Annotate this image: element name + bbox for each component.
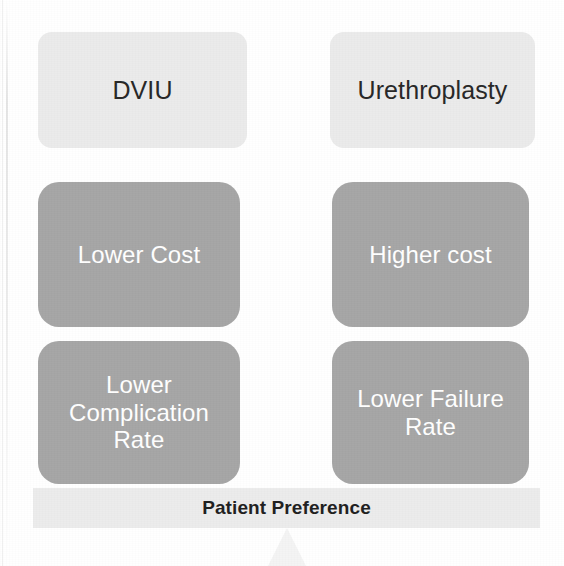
diagram-canvas: DVIU Urethroplasty Lower Cost Higher cos… <box>0 0 564 566</box>
option-header-dviu-label: DVIU <box>112 76 172 105</box>
attribute-box-urethroplasty-failure-rate-label: Lower Failure Rate <box>357 385 504 441</box>
scan-artifact-line-outer <box>2 0 3 566</box>
option-header-urethroplasty-label: Urethroplasty <box>358 76 508 105</box>
scan-artifact-line <box>6 0 8 566</box>
up-arrow-icon <box>268 528 306 566</box>
attribute-box-dviu-cost-label: Lower Cost <box>78 241 200 269</box>
attribute-box-dviu-complication-rate[interactable]: Lower Complication Rate <box>38 341 240 484</box>
attribute-box-urethroplasty-cost-label: Higher cost <box>369 241 491 269</box>
option-header-urethroplasty[interactable]: Urethroplasty <box>330 32 535 148</box>
attribute-box-dviu-complication-rate-label: Lower Complication Rate <box>69 371 209 454</box>
attribute-box-urethroplasty-failure-rate[interactable]: Lower Failure Rate <box>332 341 529 484</box>
attribute-box-dviu-cost[interactable]: Lower Cost <box>38 182 240 327</box>
patient-preference-banner[interactable]: Patient Preference <box>33 488 540 528</box>
patient-preference-banner-label: Patient Preference <box>202 497 371 519</box>
option-header-dviu[interactable]: DVIU <box>38 32 247 148</box>
attribute-box-urethroplasty-cost[interactable]: Higher cost <box>332 182 529 327</box>
